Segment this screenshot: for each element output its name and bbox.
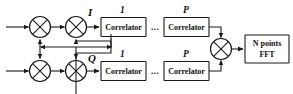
signal-label-i: I [87, 6, 93, 18]
correlator-top-last-label: Correlator [168, 23, 205, 32]
correlator-bottom-last: Correlator [164, 62, 209, 81]
diagram-canvas: I Correlator 1 ... Correlator P [0, 0, 293, 94]
signal-label-q: Q [88, 52, 96, 64]
correlator-top-last-index: P [183, 5, 189, 15]
correlator-bottom-first: Correlator [101, 62, 146, 81]
correlator-bottom-first-label: Correlator [105, 67, 142, 76]
block-diagram: I Correlator 1 ... Correlator P [0, 0, 293, 94]
correlator-top-first-index: 1 [120, 5, 125, 15]
fft-block: N points FFT [245, 35, 289, 63]
fft-label-line1: N points [253, 39, 282, 48]
correlator-bottom-last-label: Correlator [168, 67, 205, 76]
mixer-bottom-first [30, 61, 51, 82]
correlator-top-first-label: Correlator [105, 23, 142, 32]
mixer-top-first [30, 17, 51, 38]
lo-feed-i-mixer [76, 40, 111, 48]
ellipsis-bottom: ... [151, 66, 159, 76]
wire-top-to-combiner [209, 27, 221, 38]
mixer-combiner [211, 39, 232, 60]
fft-label-line2: FFT [259, 50, 275, 59]
mixer-top-second [66, 17, 87, 38]
correlator-top-first: Correlator [101, 18, 146, 37]
correlator-bottom-first-index: 1 [120, 49, 125, 59]
wire-bottom-to-combiner [209, 61, 221, 72]
correlator-top-last: Correlator [164, 18, 209, 37]
correlator-bottom-last-index: P [183, 49, 189, 59]
ellipsis-top: ... [151, 22, 159, 32]
